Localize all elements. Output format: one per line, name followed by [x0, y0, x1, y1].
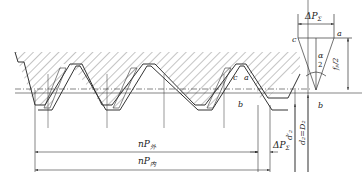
svg-text:b: b	[238, 100, 243, 109]
svg-text:a: a	[244, 73, 249, 82]
np-outer-dimension: nP外	[35, 139, 258, 152]
svg-text:d₂=D₂: d₂=D₂	[298, 120, 307, 145]
svg-text:fₚ/2: fₚ/2	[332, 57, 340, 71]
svg-text:b: b	[318, 101, 323, 110]
svg-text:a: a	[337, 29, 342, 38]
svg-text:c: c	[233, 73, 238, 82]
error-triangle	[298, 14, 352, 90]
np-inner-dimension: nP内	[35, 156, 270, 170]
svg-text:c: c	[292, 35, 297, 44]
thread-point-labels: c a b	[233, 73, 249, 109]
diameter-dimensions: d′₂ d₂=D₂	[285, 95, 308, 172]
svg-text:2: 2	[318, 61, 322, 69]
svg-text:nP内: nP内	[138, 156, 157, 167]
svg-text:d′₂: d′₂	[285, 130, 294, 140]
svg-text:ΔPΣ: ΔPΣ	[272, 140, 291, 151]
thread-pitch-diagram: nP外 nP内 ΔPΣ d′₂ d₂=D₂ c a b ΔPΣ c	[0, 0, 362, 186]
svg-text:nP外: nP外	[138, 139, 157, 150]
svg-text:α: α	[318, 51, 324, 60]
svg-text:ΔPΣ: ΔPΣ	[304, 11, 323, 22]
